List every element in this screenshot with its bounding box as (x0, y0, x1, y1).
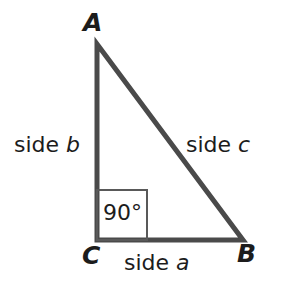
side-label-b: side b (14, 134, 80, 156)
right-angle-label: 90° (103, 202, 142, 224)
side-label-c: side c (186, 134, 250, 156)
right-triangle-figure: A C B side b side c side a 90° (0, 0, 281, 303)
side-a-static: side (124, 250, 169, 275)
side-c-static: side (186, 132, 231, 157)
side-c-variable: c (238, 132, 250, 157)
side-b-variable: b (66, 132, 80, 157)
side-a-variable: a (176, 250, 189, 275)
vertex-label-c: C (82, 243, 100, 268)
vertex-label-b: B (237, 241, 256, 266)
side-label-a: side a (124, 252, 190, 274)
vertex-label-a: A (83, 10, 102, 35)
side-b-static: side (14, 132, 59, 157)
